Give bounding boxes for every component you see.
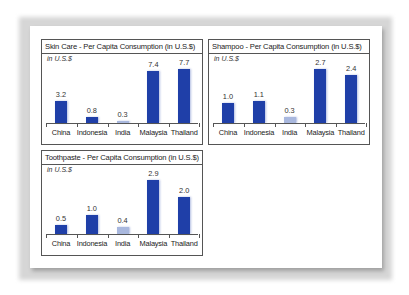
bar [55, 225, 67, 234]
toothpaste-chart: Toothpaste - Per Capita Consumption (in … [41, 150, 203, 256]
axis-tick [77, 234, 78, 238]
axis-tick [46, 123, 47, 127]
axis-tick [336, 123, 337, 127]
value-label: 2.7 [305, 58, 335, 67]
axis-tick [169, 234, 170, 238]
category-label: Malaysia [138, 128, 168, 137]
axis-tick [275, 123, 276, 127]
category-label: Thailand [169, 128, 199, 137]
chart-title: Skin Care - Per Capita Consumption (in U… [42, 40, 202, 54]
bar-group: 7.4 [138, 59, 168, 123]
category-label: China [46, 128, 76, 137]
category-label: China [213, 128, 243, 137]
axis-tick [138, 234, 139, 238]
axis-tick [213, 123, 214, 127]
value-label: 2.0 [169, 186, 199, 195]
axis-tick [108, 123, 109, 127]
bar-group: 2.7 [305, 57, 335, 123]
axis-tick [46, 234, 47, 238]
value-label: 7.7 [169, 58, 199, 67]
chart-title: Shampoo - Per Capita Consumption (in U.S… [209, 40, 369, 54]
skin-care-chart: Skin Care - Per Capita Consumption (in U… [41, 39, 203, 145]
bar-group: 2.4 [336, 63, 366, 123]
chart-title: Toothpaste - Per Capita Consumption (in … [42, 151, 202, 165]
unit-label: in U.S.$ [47, 166, 72, 173]
bar [345, 75, 357, 123]
axis-tick [108, 234, 109, 238]
category-label: India [108, 239, 138, 248]
bar-group: 0.8 [77, 105, 107, 123]
value-label: 2.9 [138, 169, 168, 178]
category-label: Indonesia [244, 128, 274, 137]
x-axis-labels: ChinaIndonesiaIndiaMalaysiaThailand [46, 128, 198, 138]
x-axis-labels: ChinaIndonesiaIndiaMalaysiaThailand [46, 239, 198, 249]
value-label: 1.0 [77, 204, 107, 213]
axis-tick [366, 123, 367, 127]
bar-group: 1.0 [77, 203, 107, 234]
bar-group: 0.3 [108, 109, 138, 123]
axis-tick [138, 123, 139, 127]
axis-tick [199, 123, 200, 127]
plot-area: 3.20.80.37.47.7 [46, 64, 198, 124]
plot-area: 0.51.00.42.92.0 [46, 175, 198, 235]
x-axis [213, 123, 365, 124]
value-label: 0.3 [275, 106, 305, 115]
value-label: 1.0 [213, 92, 243, 101]
bar-group: 2.9 [138, 168, 168, 234]
bar-group: 1.1 [244, 89, 274, 123]
bar-group: 2.0 [169, 185, 199, 234]
bar-group: 0.3 [275, 105, 305, 123]
value-label: 0.5 [46, 214, 76, 223]
bar [253, 101, 265, 123]
category-label: China [46, 239, 76, 248]
unit-label: in U.S.$ [47, 55, 72, 62]
bar-group: 3.2 [46, 89, 76, 123]
value-label: 0.4 [108, 216, 138, 225]
axis-tick [169, 123, 170, 127]
x-axis [46, 234, 198, 235]
bar [147, 71, 159, 123]
bar-group: 7.7 [169, 57, 199, 123]
category-label: India [275, 128, 305, 137]
bar-group: 0.4 [108, 215, 138, 234]
axis-tick [77, 123, 78, 127]
category-label: Thailand [169, 239, 199, 248]
bar [178, 69, 190, 123]
x-axis-labels: ChinaIndonesiaIndiaMalaysiaThailand [213, 128, 365, 138]
value-label: 3.2 [46, 90, 76, 99]
axis-tick [244, 123, 245, 127]
value-label: 0.3 [108, 110, 138, 119]
bar [222, 103, 234, 123]
axis-tick [199, 234, 200, 238]
axis-tick [305, 123, 306, 127]
bar [178, 197, 190, 234]
value-label: 0.8 [77, 106, 107, 115]
bar [55, 101, 67, 123]
category-label: Malaysia [138, 239, 168, 248]
plot-area: 1.01.10.32.72.4 [213, 64, 365, 124]
shampoo-chart: Shampoo - Per Capita Consumption (in U.S… [208, 39, 370, 145]
bar-group: 0.5 [46, 213, 76, 234]
value-label: 1.1 [244, 90, 274, 99]
category-label: Indonesia [77, 239, 107, 248]
unit-label: in U.S.$ [214, 55, 239, 62]
bar [86, 215, 98, 234]
bar [147, 180, 159, 234]
bar [314, 69, 326, 123]
bar [117, 227, 129, 234]
category-label: Indonesia [77, 128, 107, 137]
category-label: Malaysia [305, 128, 335, 137]
category-label: Thailand [336, 128, 366, 137]
value-label: 7.4 [138, 60, 168, 69]
value-label: 2.4 [336, 64, 366, 73]
bar-group: 1.0 [213, 91, 243, 123]
charts-card: Skin Care - Per Capita Consumption (in U… [30, 26, 382, 268]
category-label: India [108, 128, 138, 137]
x-axis [46, 123, 198, 124]
